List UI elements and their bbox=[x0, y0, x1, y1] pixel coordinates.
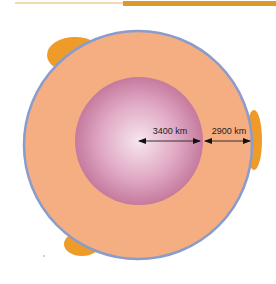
planet-diagram: 3400 km 2900 km bbox=[0, 0, 276, 284]
stray-dot bbox=[43, 255, 45, 257]
mantle-thickness-label: 2900 km bbox=[212, 126, 247, 136]
header-rule-thick bbox=[123, 1, 276, 6]
core-radius-label: 3400 km bbox=[153, 126, 188, 136]
